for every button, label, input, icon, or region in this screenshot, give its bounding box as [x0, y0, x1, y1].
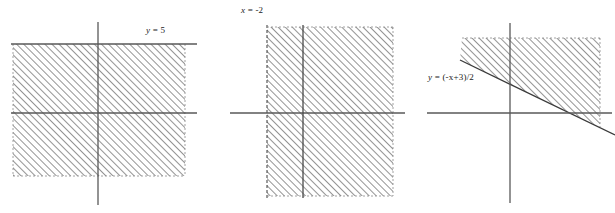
graph-panel-1: y = 5	[0, 0, 215, 213]
graph-panel-3: y = (-x+3)/2	[405, 0, 615, 213]
shaded-region-1	[13, 44, 185, 176]
equation-label-2: x = -2	[241, 5, 263, 15]
equation-label-1: y = 5	[146, 25, 165, 35]
equation-label-3: y = (-x+3)/2	[428, 72, 474, 82]
equation-label-2-rel: =	[245, 5, 255, 15]
graph-2-canvas	[215, 0, 405, 213]
equation-label-1-rhs: 5	[160, 25, 165, 35]
equation-label-1-rel: =	[150, 25, 160, 35]
graph-3-canvas	[405, 0, 615, 213]
graph-1-canvas	[0, 0, 215, 213]
equation-label-3-rel: =	[432, 72, 442, 82]
three-inequality-graphs-figure: y = 5 x = -2	[0, 0, 615, 213]
equation-label-3-rhs: (-x+3)/2	[442, 72, 474, 82]
graph-panel-2: x = -2	[215, 0, 405, 213]
equation-label-2-rhs: -2	[255, 5, 263, 15]
shaded-region-2	[267, 27, 393, 196]
